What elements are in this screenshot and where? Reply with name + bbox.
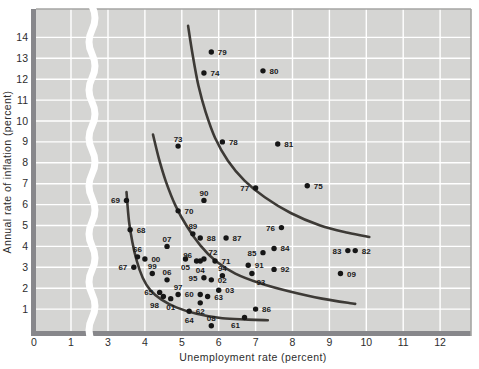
point-year-label: 91	[255, 261, 264, 270]
y-tick-label: 9	[22, 135, 28, 147]
point-year-label: 03	[225, 286, 234, 295]
point-dot	[131, 265, 136, 270]
point-year-label: 75	[314, 182, 323, 191]
point-year-label: 80	[269, 67, 278, 76]
point-dot	[249, 271, 254, 276]
y-tick-label: 1	[22, 303, 28, 315]
x-tick-label: 0	[31, 336, 37, 348]
point-dot	[242, 315, 247, 320]
point-year-label: 02	[218, 276, 227, 285]
point-year-label: 64	[185, 316, 194, 325]
y-tick-label: 6	[22, 198, 28, 210]
point-dot	[205, 294, 210, 299]
point-dot	[201, 275, 206, 280]
y-tick-label: 3	[22, 261, 28, 273]
point-dot	[186, 308, 191, 313]
point-year-label: 04	[196, 266, 205, 275]
y-axis-title: Annual rate of inflation (percent)	[1, 90, 13, 253]
point-dot	[183, 256, 188, 261]
point-dot	[220, 139, 225, 144]
point-year-label: 84	[281, 244, 290, 253]
point-dot	[209, 277, 214, 282]
point-year-label: 87	[233, 234, 242, 243]
y-tick-label: 14	[16, 31, 28, 43]
point-year-label: 94	[218, 264, 227, 273]
point-dot	[198, 300, 203, 305]
y-tick-label: 5	[22, 219, 28, 231]
point-year-label: 09	[347, 270, 356, 279]
unemployment-inflation-scatter-plot: 6061626364656667686970717273747576777879…	[0, 0, 479, 369]
point-dot	[175, 292, 180, 297]
x-tick-label: 3	[105, 336, 111, 348]
point-dot	[198, 235, 203, 240]
y-tick-label: 12	[16, 73, 28, 85]
point-dot	[190, 231, 195, 236]
point-dot	[345, 248, 350, 253]
point-dot	[246, 263, 251, 268]
point-dot	[127, 227, 132, 232]
point-year-label: 85	[248, 249, 257, 258]
point-year-label: 89	[188, 222, 197, 231]
point-dot	[279, 225, 284, 230]
y-tick-label: 8	[22, 156, 28, 168]
point-year-label: 68	[137, 226, 146, 235]
point-dot	[164, 277, 169, 282]
point-year-label: 88	[207, 234, 216, 243]
point-dot	[353, 248, 358, 253]
point-year-label: 60	[185, 290, 194, 299]
point-dot	[157, 290, 162, 295]
point-dot	[198, 292, 203, 297]
point-year-label: 08	[207, 314, 216, 323]
point-dot	[212, 258, 217, 263]
point-dot	[253, 185, 258, 190]
point-dot	[161, 294, 166, 299]
point-year-label: 63	[214, 293, 223, 302]
point-year-label: 83	[332, 247, 341, 256]
point-dot	[260, 68, 265, 73]
point-year-label: 82	[362, 247, 371, 256]
point-year-label: 86	[262, 305, 271, 314]
point-dot	[223, 235, 228, 240]
point-dot	[271, 267, 276, 272]
x-tick-label: 12	[434, 336, 446, 348]
point-year-label: 79	[218, 48, 227, 57]
y-tick-label: 4	[22, 240, 28, 252]
point-year-label: 95	[189, 274, 198, 283]
point-year-label: 77	[240, 184, 249, 193]
point-year-label: 62	[196, 307, 205, 316]
x-tick-label: 7	[253, 336, 259, 348]
x-tick-label: 5	[179, 336, 185, 348]
point-dot	[175, 143, 180, 148]
point-year-label: 07	[163, 235, 172, 244]
point-dot	[305, 183, 310, 188]
point-year-label: 72	[208, 248, 217, 257]
point-year-label: 76	[266, 224, 275, 233]
point-year-label: 05	[181, 263, 190, 272]
y-tick-label: 7	[22, 177, 28, 189]
point-year-label: 92	[281, 265, 290, 274]
point-dot	[338, 271, 343, 276]
point-dot	[201, 70, 206, 75]
x-tick-label: 4	[142, 336, 148, 348]
point-year-label: 01	[166, 303, 175, 312]
point-dot	[253, 306, 258, 311]
plot-background	[36, 9, 471, 331]
x-tick-label: 1	[68, 336, 74, 348]
point-dot	[198, 258, 203, 263]
point-year-label: 00	[151, 255, 160, 264]
point-dot	[164, 244, 169, 249]
point-year-label: 61	[231, 321, 240, 330]
point-year-label: 66	[133, 245, 142, 254]
point-year-label: 97	[174, 283, 183, 292]
y-tick-labels: 1234567891011121314	[16, 31, 28, 315]
x-tick-label: 11	[398, 336, 409, 348]
point-dot	[271, 246, 276, 251]
point-year-label: 98	[150, 301, 159, 310]
y-axis-line	[31, 9, 36, 331]
y-tick-label: 10	[16, 115, 28, 127]
y-tick-label: 13	[16, 52, 28, 64]
point-dot	[209, 49, 214, 54]
point-year-label: 81	[284, 140, 293, 149]
point-dot	[216, 288, 221, 293]
point-year-label: 90	[199, 189, 208, 198]
